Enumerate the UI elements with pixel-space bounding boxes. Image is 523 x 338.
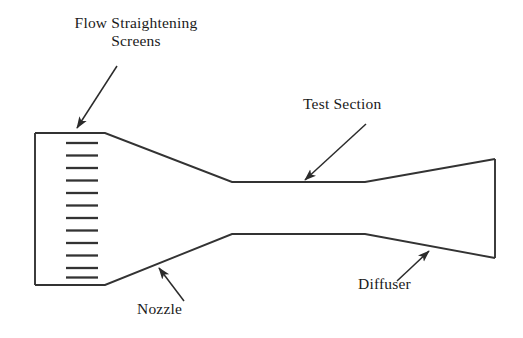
label-test-section: Test Section (303, 95, 381, 113)
test-section-arrow (305, 124, 366, 180)
screens-arrow (77, 66, 117, 128)
tunnel-upper-wall (35, 133, 495, 182)
tunnel-schematic-svg (0, 0, 523, 338)
flow-straightening-screens-group (66, 143, 98, 278)
label-flow-straightening-screens: Flow Straightening Screens (41, 14, 231, 51)
nozzle-arrow (159, 268, 184, 301)
label-nozzle: Nozzle (137, 300, 182, 318)
wind-tunnel-diagram: Flow Straightening Screens Test Section … (0, 0, 523, 338)
tunnel-lower-wall (35, 234, 495, 285)
tunnel-outline-group (35, 133, 495, 285)
label-diffuser: Diffuser (358, 275, 411, 293)
